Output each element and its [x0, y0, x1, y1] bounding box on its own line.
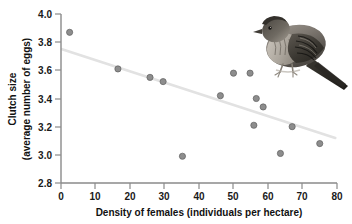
y-tick-label-3-4: 3.4 — [38, 94, 52, 105]
y-tick-label-2-8: 2.8 — [38, 178, 52, 189]
x-tick-label-30: 30 — [158, 191, 170, 202]
data-point — [147, 74, 153, 80]
data-point — [115, 66, 121, 72]
data-point — [179, 153, 185, 159]
x-tick-label-80: 80 — [331, 191, 343, 202]
data-point — [289, 124, 295, 130]
y-tick-label-3-8: 3.8 — [38, 37, 52, 48]
x-tick-label-70: 70 — [296, 191, 308, 202]
y-tick-label-3-0: 3.0 — [38, 150, 52, 161]
x-tick-label-20: 20 — [124, 191, 136, 202]
y-tick-label-4-0: 4.0 — [38, 9, 52, 20]
sparrow-photo-icon — [253, 15, 348, 90]
x-axis-title: Density of females (individuals per hect… — [96, 207, 303, 218]
data-point — [251, 122, 257, 128]
scatter-plot-figure: 4.0 3.8 3.6 3.4 3.2 3.0 2.8 0 10 20 30 4… — [0, 0, 352, 224]
y-tick-label-3-2: 3.2 — [38, 122, 52, 133]
data-point — [317, 140, 323, 146]
y-tick-label-3-6: 3.6 — [38, 65, 52, 76]
data-point — [253, 95, 259, 101]
data-point — [260, 104, 266, 110]
data-point — [247, 70, 253, 76]
x-tick-label-0: 0 — [58, 191, 64, 202]
data-point — [277, 150, 283, 156]
y-axis-ticks — [55, 14, 61, 183]
x-tick-label-10: 10 — [89, 191, 101, 202]
x-axis-ticks — [61, 183, 337, 189]
data-point — [230, 70, 236, 76]
data-point — [217, 93, 223, 99]
x-tick-label-40: 40 — [193, 191, 205, 202]
x-tick-label-50: 50 — [227, 191, 239, 202]
data-point — [67, 29, 73, 35]
x-tick-label-60: 60 — [262, 191, 274, 202]
y-axis-title-line1: Clutch size — [7, 72, 18, 125]
data-point — [160, 79, 166, 85]
y-axis-title-line2: (average number of eggs) — [21, 38, 32, 160]
chart-canvas: 4.0 3.8 3.6 3.4 3.2 3.0 2.8 0 10 20 30 4… — [0, 0, 352, 224]
